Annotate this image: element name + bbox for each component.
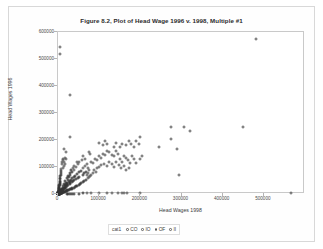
data-point xyxy=(137,143,140,146)
legend-entry-label: IO xyxy=(145,227,150,232)
data-point xyxy=(110,192,113,195)
x-axis-tick-label: 0 xyxy=(56,196,59,201)
data-point xyxy=(89,192,92,195)
data-point xyxy=(133,157,136,160)
data-point xyxy=(98,141,101,144)
x-axis-tick-label: 100000 xyxy=(90,196,105,201)
legend-entry[interactable]: OF xyxy=(155,227,166,232)
open-circle-icon xyxy=(155,228,158,231)
y-axis-tick-mark xyxy=(54,139,57,140)
data-point xyxy=(100,156,103,159)
data-point xyxy=(120,167,123,170)
legend-title: cat1 xyxy=(112,227,121,232)
data-point xyxy=(157,145,160,148)
data-point xyxy=(87,168,90,171)
y-axis-tick-mark xyxy=(54,112,57,113)
data-point xyxy=(112,145,115,148)
x-axis-tick-label: 500000 xyxy=(255,196,270,201)
data-point xyxy=(188,129,191,132)
x-axis-tick-mark xyxy=(98,193,99,196)
data-point xyxy=(122,164,125,167)
data-point xyxy=(176,148,179,151)
data-point xyxy=(94,170,97,173)
data-point xyxy=(135,161,138,164)
data-point xyxy=(58,52,61,55)
y-axis-tick-mark xyxy=(54,166,57,167)
data-point xyxy=(83,157,86,160)
y-axis-tick-mark xyxy=(54,85,57,86)
data-point xyxy=(170,137,173,140)
data-point xyxy=(139,157,142,160)
chart-title: Figure 8.2, Plot of Head Wage 1996 v. 19… xyxy=(8,17,315,24)
y-axis-tick-label: 100000 xyxy=(39,164,54,169)
data-point xyxy=(59,45,62,48)
open-circle-icon xyxy=(126,228,129,231)
data-point xyxy=(115,141,118,144)
y-axis-tick-label: 200000 xyxy=(39,137,54,142)
data-point xyxy=(124,144,127,147)
legend-entry-label: II xyxy=(173,227,176,232)
x-axis-tick-label: 300000 xyxy=(173,196,188,201)
data-point xyxy=(133,145,136,148)
data-point xyxy=(81,192,84,195)
data-point xyxy=(125,169,128,172)
data-point xyxy=(69,136,72,139)
data-point xyxy=(104,153,107,156)
x-axis-tick-labels: 0100000200000300000400000500000 xyxy=(57,196,304,206)
open-circle-icon xyxy=(141,228,144,231)
data-point xyxy=(120,160,123,163)
data-point xyxy=(116,152,119,155)
data-point xyxy=(77,192,80,195)
legend-entry-label: CO xyxy=(130,227,137,232)
data-point xyxy=(120,143,123,146)
screenshot-root: Figure 8.2, Plot of Head Wage 1996 v. 19… xyxy=(0,0,323,249)
legend-entry-label: OF xyxy=(159,227,166,232)
data-point xyxy=(69,94,72,97)
y-axis-title: Head Wages 1996 xyxy=(7,67,13,131)
x-axis-tick-mark xyxy=(57,193,58,196)
data-point xyxy=(85,192,88,195)
data-point xyxy=(80,159,83,162)
y-axis-tick-label: 500000 xyxy=(39,56,54,61)
y-axis-tick-label: 400000 xyxy=(39,83,54,88)
x-axis-title: Head Wages 1998 xyxy=(57,207,304,213)
x-axis-tick-mark xyxy=(139,193,140,196)
scatter-plot-area xyxy=(58,32,303,192)
y-axis-tick-labels: 0100000200000300000400000500000600000 xyxy=(18,31,54,193)
data-point xyxy=(89,152,92,155)
data-point xyxy=(182,125,185,128)
data-point xyxy=(91,161,94,164)
data-point xyxy=(242,125,245,128)
data-point xyxy=(106,192,109,195)
open-circle-icon xyxy=(169,228,172,231)
y-axis-tick-mark xyxy=(54,58,57,59)
data-point xyxy=(126,191,129,194)
chart-legend: cat1 COIOOFII xyxy=(108,224,180,235)
x-axis-tick-mark xyxy=(263,193,264,196)
data-point xyxy=(106,143,109,146)
data-point xyxy=(112,166,115,169)
data-point xyxy=(127,166,130,169)
data-point xyxy=(102,144,105,147)
legend-entry[interactable]: CO xyxy=(126,227,137,232)
x-axis-tick-mark xyxy=(181,193,182,196)
data-point xyxy=(116,191,119,194)
legend-entry[interactable]: IO xyxy=(141,227,150,232)
plot-frame xyxy=(57,31,304,193)
data-point xyxy=(112,155,115,158)
data-point xyxy=(178,174,181,177)
y-axis-tick-label: 600000 xyxy=(39,29,54,34)
x-axis-tick-mark xyxy=(222,193,223,196)
data-point xyxy=(254,37,257,40)
data-point xyxy=(60,163,63,166)
data-point xyxy=(64,158,67,161)
data-point xyxy=(289,192,292,195)
legend-entry[interactable]: II xyxy=(169,227,176,232)
data-point xyxy=(117,163,120,166)
data-point xyxy=(170,125,173,128)
y-axis-tick-label: 300000 xyxy=(39,110,54,115)
x-axis-tick-label: 400000 xyxy=(214,196,229,201)
data-point xyxy=(105,164,108,167)
data-point xyxy=(139,136,142,139)
x-axis-tick-label: 200000 xyxy=(132,196,147,201)
